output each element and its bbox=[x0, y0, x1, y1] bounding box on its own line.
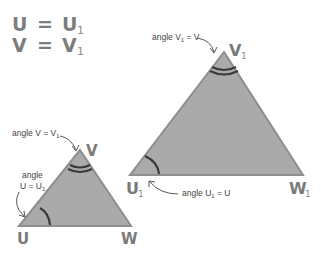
eq-u-left: U bbox=[12, 13, 27, 35]
eq-v-equals: = bbox=[37, 34, 53, 56]
small-angle-u-prefix: U = U bbox=[20, 181, 42, 191]
small-vertex-v-label: V bbox=[86, 142, 98, 160]
small-angle-v-annotation: angle V = V1 bbox=[12, 128, 79, 151]
large-angle-u-suffix: = U bbox=[215, 188, 231, 198]
eq-u-equals: = bbox=[37, 13, 53, 35]
large-vertex-w-sub: 1 bbox=[305, 189, 311, 199]
small-angle-u-arrow bbox=[16, 192, 24, 216]
small-vertex-w-label: W bbox=[121, 230, 138, 248]
eq-u-right-sub: 1 bbox=[77, 24, 84, 37]
svg-text:angle V1 = V: angle V1 = V bbox=[152, 32, 200, 43]
large-angle-v-prefix: angle V bbox=[152, 32, 181, 42]
small-angle-v-prefix: angle V = V bbox=[12, 128, 57, 138]
svg-text:U = U1: U = U1 bbox=[20, 181, 46, 192]
svg-text:angle V = V1: angle V = V1 bbox=[12, 128, 60, 139]
eq-u-right: U bbox=[62, 13, 77, 35]
small-triangle: V U W angle V = V1 angle U = U1 bbox=[12, 128, 138, 248]
large-triangle-shape bbox=[130, 52, 303, 175]
equation-v: V = V 1 bbox=[12, 34, 84, 58]
small-vertex-u-label: U bbox=[17, 230, 29, 248]
small-angle-u-sub: 1 bbox=[42, 186, 46, 192]
large-angle-v-annotation: angle V1 = V bbox=[152, 32, 217, 53]
eq-v-right-sub: 1 bbox=[77, 45, 84, 58]
large-vertex-v-sub: 1 bbox=[241, 51, 247, 61]
large-angle-u-annotation: angle U1 = U bbox=[149, 181, 230, 199]
small-angle-v-sub: 1 bbox=[56, 133, 60, 139]
large-vertex-u-sub: 1 bbox=[138, 189, 144, 199]
eq-v-left: V bbox=[12, 34, 27, 56]
svg-text:angle U1 = U: angle U1 = U bbox=[182, 188, 230, 199]
large-angle-u-arrow bbox=[150, 182, 178, 194]
large-angle-u-prefix: angle U bbox=[182, 188, 211, 198]
eq-v-right: V bbox=[62, 34, 77, 56]
large-angle-v-suffix: = V bbox=[184, 32, 200, 42]
large-triangle: V 1 U 1 W 1 angle V1 = V angle U1 = U bbox=[126, 32, 311, 199]
similar-triangles-diagram: U = U 1 V = V 1 V 1 U 1 W 1 angle V1 = V… bbox=[0, 0, 321, 262]
small-angle-u-line1: angle bbox=[22, 170, 43, 180]
